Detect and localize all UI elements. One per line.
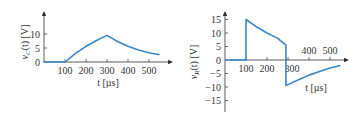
y-axis-label: vR(t) [V] bbox=[188, 45, 201, 80]
y-tick-label: 0 bbox=[35, 57, 40, 68]
x-tick-label: 300 bbox=[100, 65, 115, 76]
x-tick-label: 500 bbox=[142, 65, 157, 76]
x-tick-label: 100 bbox=[58, 65, 73, 76]
x-tick-label: 500 bbox=[323, 45, 338, 56]
x-tick-label: 100 bbox=[239, 63, 254, 74]
x-tick-label: 400 bbox=[121, 65, 136, 76]
data-curve bbox=[44, 35, 160, 62]
y-tick-label: −10 bbox=[205, 82, 221, 93]
y-tick-label: 5 bbox=[35, 43, 40, 54]
y-tick-label: 10 bbox=[30, 29, 40, 40]
x-ticks: 100200300400500 bbox=[58, 59, 157, 76]
y-tick-label: 15 bbox=[211, 14, 221, 25]
y-tick-label: 10 bbox=[211, 28, 221, 39]
y-tick-label: 5 bbox=[216, 41, 221, 52]
resistor-voltage-chart: −15−10−5051015 100200300400500 vR(t) [V]… bbox=[188, 12, 348, 112]
x-axis-label: t [µs] bbox=[97, 77, 119, 88]
x-tick-label: 300 bbox=[285, 63, 300, 74]
x-tick-label: 200 bbox=[260, 63, 275, 74]
x-axis-label: t [µs] bbox=[305, 82, 327, 93]
y-tick-label: 0 bbox=[216, 55, 221, 66]
x-tick-label: 200 bbox=[79, 65, 94, 76]
x-ticks: 100200300400500 bbox=[239, 45, 338, 74]
x-tick-label: 400 bbox=[302, 45, 317, 56]
figure: 0510 100200300400500 vC(t) [V] t [µs] −1… bbox=[0, 0, 360, 119]
y-tick-label: −5 bbox=[210, 68, 221, 79]
y-tick-label: −15 bbox=[205, 95, 221, 106]
capacitor-voltage-chart: 0510 100200300400500 vC(t) [V] t [µs] bbox=[19, 12, 172, 88]
